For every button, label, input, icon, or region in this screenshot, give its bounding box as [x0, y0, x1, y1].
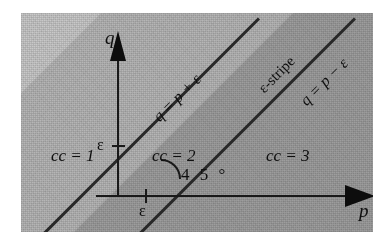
q-axis-epsilon-tick — [112, 145, 125, 147]
q-axis — [117, 51, 119, 197]
q-axis-label: q — [105, 28, 115, 47]
angle-label: 4 5 ° — [181, 166, 228, 183]
region-cc1-label: cc = 1 — [51, 147, 95, 164]
region-cc2-label: cc = 2 — [152, 147, 196, 164]
p-axis-tick-label: ε — [139, 203, 146, 219]
p-axis — [96, 195, 351, 197]
p-axis-label: p — [359, 201, 369, 220]
scan-grain-texture — [21, 13, 373, 232]
region-cc3-label: cc = 3 — [266, 147, 310, 164]
diagram-plate: q p ε ε 4 5 ° cc = 1 cc = 2 cc = 3 q = p… — [21, 13, 373, 232]
figure-container: q p ε ε 4 5 ° cc = 1 cc = 2 cc = 3 q = p… — [0, 0, 387, 248]
q-axis-tick-label: ε — [97, 137, 104, 153]
p-axis-epsilon-tick — [145, 189, 147, 203]
